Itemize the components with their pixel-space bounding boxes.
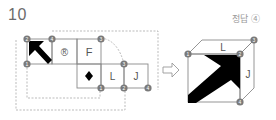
r-face-label: ® [61, 47, 69, 58]
vertex-badge: 2 [120, 84, 127, 91]
diagram: ® F L J 2 4 1 3 3 1 2 4 L J 1 2 3 4 [0, 0, 276, 120]
svg-text:1: 1 [100, 85, 103, 91]
svg-text:4: 4 [51, 36, 54, 42]
vertex-badge: 3 [250, 36, 257, 43]
svg-text:1: 1 [26, 61, 29, 67]
j-face-label: J [134, 71, 139, 82]
cube-top-label: L [220, 42, 226, 53]
diamond-icon [85, 71, 93, 81]
vertex-badge: 1 [97, 84, 104, 91]
svg-text:4: 4 [147, 85, 150, 91]
svg-text:2: 2 [26, 36, 29, 42]
arrow-up-left-icon [29, 41, 52, 64]
vertex-badge: 4 [48, 35, 55, 42]
vertex-badge: 4 [144, 84, 151, 91]
transform-arrow-icon [163, 63, 179, 77]
svg-text:3: 3 [123, 61, 126, 67]
svg-text:3: 3 [100, 36, 103, 42]
cube-right-label: J [246, 69, 251, 80]
vertex-badge: 3 [120, 60, 127, 67]
l-face-label: L [110, 71, 116, 82]
net-vertex-badges: 2 4 1 3 3 1 2 4 [23, 35, 151, 91]
vertex-badge: 3 [97, 35, 104, 42]
vertex-badge: 1 [184, 50, 191, 57]
f-face-label: F [86, 46, 93, 58]
svg-text:2: 2 [123, 85, 126, 91]
vertex-badge: 4 [236, 98, 243, 105]
svg-text:2: 2 [239, 51, 242, 57]
svg-text:4: 4 [239, 99, 242, 105]
svg-text:1: 1 [187, 51, 190, 57]
vertex-badge: 2 [23, 35, 30, 42]
vertex-badge: 2 [236, 50, 243, 57]
arrow-up-right-icon [188, 55, 240, 103]
vertex-badge: 1 [23, 60, 30, 67]
svg-text:3: 3 [253, 37, 256, 43]
